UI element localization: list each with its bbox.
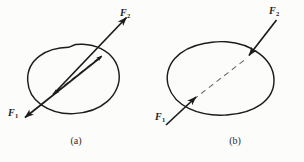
force-diagram-figure: F2 F1 (a) F2 F1 (b) bbox=[0, 0, 304, 162]
line-of-action-dashed-b bbox=[194, 58, 248, 100]
force-vector-b-f1 bbox=[166, 97, 196, 125]
force-label-b-f1: F1 bbox=[155, 112, 165, 122]
force-vector-a-f2 bbox=[53, 18, 127, 95]
force-label-b-f2: F2 bbox=[269, 6, 279, 16]
diagram-panel-b: F2 F1 (b) bbox=[152, 0, 304, 162]
force-vector-b-f2 bbox=[249, 20, 277, 56]
panel-caption-a: (a) bbox=[46, 136, 106, 146]
force-label-a-f2: F2 bbox=[120, 8, 130, 18]
panel-caption-b: (b) bbox=[205, 136, 265, 146]
diagram-panel-a: F2 F1 (a) bbox=[0, 0, 152, 162]
force-vector-a-f1 bbox=[25, 57, 101, 118]
force-label-a-f1: F1 bbox=[8, 108, 18, 118]
